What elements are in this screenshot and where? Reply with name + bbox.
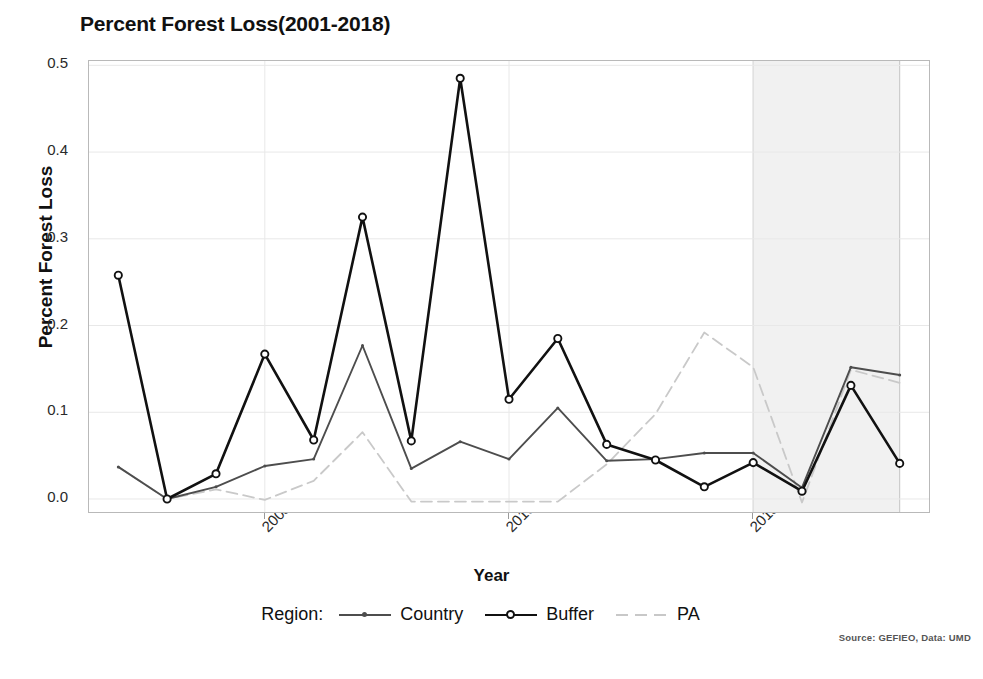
data-point-country xyxy=(263,465,266,468)
data-point-buffer xyxy=(554,335,561,342)
data-point-buffer xyxy=(847,382,854,389)
y-axis-ticks: 0.00.10.20.30.40.5 xyxy=(20,0,68,679)
shaded-band xyxy=(753,61,900,512)
chart-title: Percent Forest Loss(2001-2018) xyxy=(80,12,390,36)
data-point-country xyxy=(508,458,511,461)
data-point-buffer xyxy=(798,488,805,495)
data-point-buffer xyxy=(505,396,512,403)
legend-key-country-icon xyxy=(339,607,391,623)
chart-container: Percent Forest Loss(2001-2018) Percent F… xyxy=(0,0,983,679)
legend-label-pa: PA xyxy=(677,604,700,625)
legend-key-pa-icon xyxy=(616,607,668,623)
data-point-country xyxy=(459,440,462,443)
data-point-buffer xyxy=(457,75,464,82)
data-point-buffer xyxy=(652,456,659,463)
plot-panel xyxy=(88,60,930,513)
data-point-country xyxy=(898,374,901,377)
y-tick-label: 0.1 xyxy=(24,401,68,418)
data-point-country xyxy=(117,465,120,468)
data-point-country xyxy=(849,366,852,369)
y-tick-label: 0.0 xyxy=(24,488,68,505)
data-point-country xyxy=(605,459,608,462)
data-point-country xyxy=(215,485,218,488)
data-point-country xyxy=(361,344,364,347)
data-point-country xyxy=(312,458,315,461)
data-point-buffer xyxy=(896,460,903,467)
legend-label-country: Country xyxy=(400,604,463,625)
data-point-buffer xyxy=(701,483,708,490)
data-point-country xyxy=(752,452,755,455)
data-point-buffer xyxy=(115,272,122,279)
legend-label-buffer: Buffer xyxy=(546,604,594,625)
y-tick-label: 0.3 xyxy=(24,228,68,245)
legend-title: Region: xyxy=(261,604,323,625)
x-axis-label: Year xyxy=(0,566,983,586)
chart-legend: Region: Country Buffer PA xyxy=(0,604,983,625)
y-tick-label: 0.2 xyxy=(24,315,68,332)
y-tick-label: 0.4 xyxy=(24,141,68,158)
data-point-country xyxy=(703,452,706,455)
data-point-buffer xyxy=(164,495,171,502)
y-tick-label: 0.5 xyxy=(24,54,68,71)
legend-key-buffer-icon xyxy=(485,607,537,623)
data-point-country xyxy=(556,406,559,409)
data-point-buffer xyxy=(750,459,757,466)
data-point-buffer xyxy=(408,437,415,444)
plot-svg xyxy=(89,61,929,512)
data-point-buffer xyxy=(603,441,610,448)
legend-item-country[interactable]: Country xyxy=(339,604,463,625)
legend-item-pa[interactable]: PA xyxy=(616,604,700,625)
data-point-buffer xyxy=(310,436,317,443)
data-point-buffer xyxy=(212,470,219,477)
data-point-country xyxy=(410,467,413,470)
data-point-buffer xyxy=(261,351,268,358)
legend-item-buffer[interactable]: Buffer xyxy=(485,604,594,625)
data-point-buffer xyxy=(359,214,366,221)
source-caption: Source: GEFIEO, Data: UMD xyxy=(839,632,971,643)
